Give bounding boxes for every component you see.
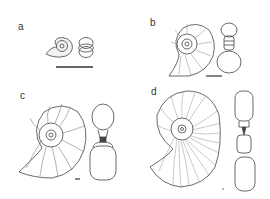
cross-section-c	[90, 104, 116, 180]
ammonite-d-illustration	[135, 85, 270, 199]
cross-section-a	[79, 38, 94, 58]
lateral-view-d	[150, 91, 221, 187]
cross-section-d	[235, 91, 255, 191]
figure: a b	[0, 0, 270, 199]
lateral-view-c	[19, 104, 86, 178]
panel-c: c	[0, 90, 135, 199]
panel-b: b	[135, 0, 270, 90]
ammonite-b-illustration	[135, 0, 270, 90]
scale-bar-d	[222, 188, 223, 189]
ammonite-a-illustration	[0, 0, 135, 90]
panel-a: a	[0, 0, 135, 90]
lateral-view-a	[46, 38, 72, 58]
panel-d: d	[135, 85, 270, 199]
lateral-view-b	[169, 24, 214, 76]
cross-section-b	[217, 23, 241, 73]
ammonite-c-illustration	[0, 90, 135, 199]
